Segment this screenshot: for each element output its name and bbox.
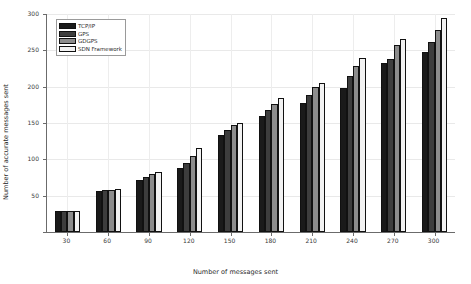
x-axis-title: Number of messages sent xyxy=(0,268,471,276)
x-tick-label: 180 xyxy=(258,237,282,244)
x-tick-label: 240 xyxy=(340,237,364,244)
bar-group xyxy=(422,14,447,232)
chart-figure: Number of accurate messages sent Number … xyxy=(0,0,471,284)
bar xyxy=(74,211,80,232)
y-tick-label: 100 xyxy=(0,156,39,162)
x-tick xyxy=(435,232,436,236)
legend-label: GDGPS xyxy=(78,38,98,44)
y-tick xyxy=(43,232,47,233)
legend-label: TCP/IP xyxy=(78,23,95,29)
bar xyxy=(196,148,202,232)
bar-group xyxy=(259,14,284,232)
x-tick-label: 120 xyxy=(177,237,201,244)
x-tick-label: 90 xyxy=(136,237,160,244)
y-tick xyxy=(43,50,47,51)
bar-group xyxy=(136,14,161,232)
x-tick xyxy=(312,232,313,236)
x-tick-label: 30 xyxy=(54,237,78,244)
x-tick xyxy=(394,232,395,236)
y-tick xyxy=(43,123,47,124)
x-tick xyxy=(353,232,354,236)
y-tick xyxy=(43,87,47,88)
legend-label: SDN Framework xyxy=(78,46,122,52)
legend-item: TCP/IP xyxy=(59,23,122,30)
y-tick-label: 250 xyxy=(0,47,39,53)
bar xyxy=(319,83,325,232)
x-tick-label: 150 xyxy=(218,237,242,244)
y-tick xyxy=(43,196,47,197)
y-tick xyxy=(43,159,47,160)
y-tick-label: 150 xyxy=(0,120,39,126)
x-tick xyxy=(190,232,191,236)
bar-group xyxy=(218,14,243,232)
bar xyxy=(115,189,121,232)
bar xyxy=(278,98,284,232)
bar xyxy=(155,172,161,232)
bar-group xyxy=(381,14,406,232)
legend-swatch xyxy=(59,23,76,29)
bar xyxy=(359,58,365,232)
x-tick xyxy=(149,232,150,236)
y-axis-title: Number of accurate messages sent xyxy=(2,84,10,200)
y-tick-label: 50 xyxy=(0,193,39,199)
legend-label: GPS xyxy=(78,31,89,37)
y-tick xyxy=(43,14,47,15)
y-tick-label: 200 xyxy=(0,84,39,90)
bar-group xyxy=(340,14,365,232)
x-tick xyxy=(108,232,109,236)
bar xyxy=(441,18,447,232)
bar-group xyxy=(300,14,325,232)
x-tick-label: 300 xyxy=(422,237,446,244)
legend-item: SDN Framework xyxy=(59,45,122,52)
x-tick-label: 270 xyxy=(381,237,405,244)
legend-swatch xyxy=(59,38,76,44)
chart-legend: TCP/IPGPSGDGPSSDN Framework xyxy=(56,19,126,56)
x-tick xyxy=(271,232,272,236)
legend-swatch xyxy=(59,31,76,37)
x-tick xyxy=(231,232,232,236)
legend-swatch xyxy=(59,46,76,52)
plot-area: TCP/IPGPSGDGPSSDN Framework xyxy=(46,14,455,233)
x-tick-label: 60 xyxy=(95,237,119,244)
bar-group xyxy=(177,14,202,232)
legend-item: GDGPS xyxy=(59,38,122,45)
x-tick xyxy=(67,232,68,236)
bar xyxy=(400,39,406,232)
legend-item: GPS xyxy=(59,30,122,37)
x-tick-label: 210 xyxy=(299,237,323,244)
bar xyxy=(237,123,243,232)
y-tick-label: 300 xyxy=(0,11,39,17)
